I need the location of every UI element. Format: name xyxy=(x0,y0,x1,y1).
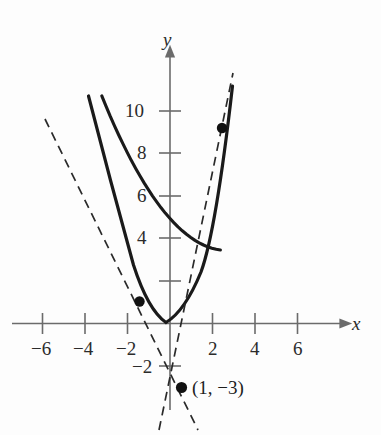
y-tick-label-10: 10 xyxy=(125,101,144,120)
x-axis xyxy=(12,313,341,334)
point-marker-right xyxy=(217,123,227,133)
x-axis-label: x xyxy=(352,314,360,333)
y-axis-label: y xyxy=(163,30,171,49)
y-tick-label-6: 6 xyxy=(137,186,147,205)
x-tick-label-2: 2 xyxy=(208,339,218,358)
tangent-line xyxy=(45,119,198,430)
point-label-1-neg3: (1, −3) xyxy=(192,378,244,397)
y-tick-label-neg2: −2 xyxy=(132,357,152,376)
parabola-curve-path xyxy=(102,96,221,250)
coordinate-plot xyxy=(0,0,381,435)
y-tick-label-4: 4 xyxy=(137,228,147,247)
x-tick-label-neg2: −2 xyxy=(116,339,136,358)
x-tick-label-neg6: −6 xyxy=(31,339,51,358)
point-marker-tangent xyxy=(176,382,187,393)
parabola xyxy=(89,86,233,323)
x-tick-label-6: 6 xyxy=(293,339,303,358)
graph-figure: y x 10 8 6 4 −2 −6 −4 −2 2 4 6 (1, −3) xyxy=(0,0,381,435)
x-tick-label-neg4: −4 xyxy=(73,339,93,358)
point-marker-left xyxy=(134,296,144,306)
y-axis xyxy=(159,56,181,410)
x-tick-label-4: 4 xyxy=(250,339,260,358)
y-tick-label-8: 8 xyxy=(137,143,147,162)
